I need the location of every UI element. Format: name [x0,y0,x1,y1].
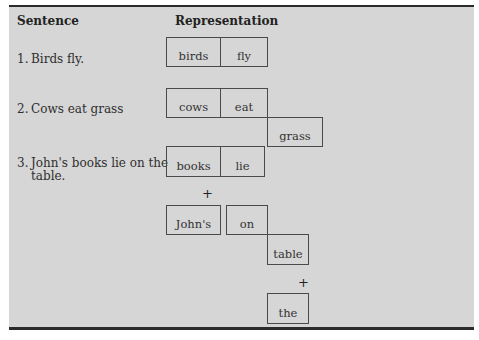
rep-box-grass: grass [267,117,323,147]
plus-connector-1: + [202,186,213,201]
rep-box-cows: cows [166,88,221,118]
box-label: cows [167,100,220,114]
sentence-text: John's books lie on thetable. [31,157,168,183]
bottom-rule [9,327,474,330]
rep-box-the: the [267,293,309,324]
box-label: books [167,159,220,173]
sentence-1: 1.Birds fly. [17,53,84,66]
sentence-number: 3. [17,157,31,170]
rep-box-table: table [267,234,309,265]
sentence-text: Cows eat grass [31,103,123,116]
box-label: the [268,306,308,320]
box-label: table [268,247,308,261]
rep-box-eat: eat [220,88,268,118]
sentence-3: 3.John's books lie on thetable. [17,157,168,183]
box-label: birds [167,49,220,63]
sentence-text: Birds fly. [31,53,84,66]
rep-box-johns: John's [166,205,221,235]
box-label: fly [221,49,267,63]
box-label: grass [268,129,322,143]
plus-connector-2: + [298,275,309,290]
box-label: eat [221,100,267,114]
box-label: lie [221,159,264,173]
box-label: John's [167,217,220,231]
box-label: on [227,217,267,231]
rep-box-on: on [226,205,268,235]
top-rule [9,5,474,7]
column-header-representation: Representation [175,14,278,28]
column-header-sentence: Sentence [17,14,79,28]
sentence-2: 2.Cows eat grass [17,103,123,116]
rep-box-books: books [166,146,221,177]
rep-box-fly: fly [220,37,268,67]
sentence-number: 1. [17,53,31,66]
sentence-line-2: table. [31,169,65,183]
sentence-number: 2. [17,103,31,116]
rep-box-lie: lie [220,146,265,177]
sentence-line-1: John's books lie on the [31,156,168,170]
rep-box-birds: birds [166,37,221,67]
